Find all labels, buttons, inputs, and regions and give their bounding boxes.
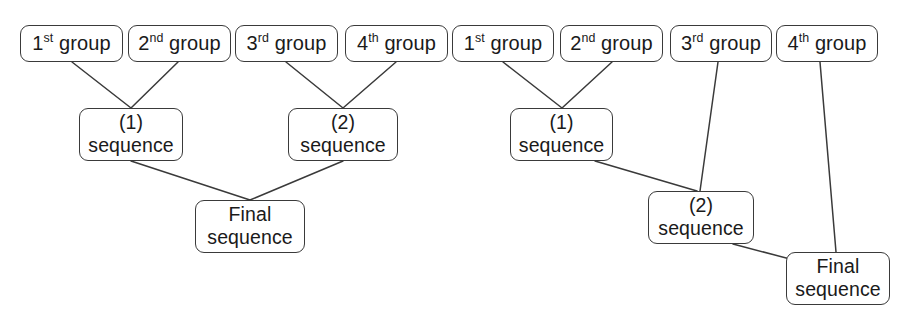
node-r-sequence-2-line2: sequence [658, 218, 743, 240]
node-group-1[interactable]: 1st group [20, 25, 123, 62]
edge-r-seq1-seq2 [595, 161, 697, 191]
edge-r-group4-final [820, 62, 836, 252]
ordinal-suffix: rd [692, 32, 703, 46]
ordinal-suffix: nd [149, 32, 163, 46]
node-sequence-1[interactable]: (1) sequence [79, 108, 183, 161]
ordinal-suffix: nd [581, 32, 595, 46]
edge-seq1-final [131, 161, 250, 200]
node-r-sequence-2-line1: (2) [689, 195, 713, 217]
ordinal-suffix: st [44, 32, 54, 46]
edge-group2-seq1 [131, 62, 178, 108]
node-r-group-2-label: 2nd group [570, 32, 653, 54]
ordinal-suffix: rd [258, 32, 269, 46]
node-group-2-label: 2nd group [138, 32, 221, 54]
node-group-1-label: 1st group [32, 32, 110, 54]
edge-r-group3-seq2 [700, 62, 718, 191]
edge-r-group1-seq1 [503, 62, 562, 108]
node-r-final-sequence[interactable]: Final sequence [786, 252, 890, 305]
node-r-sequence-2[interactable]: (2) sequence [648, 191, 754, 244]
node-sequence-2[interactable]: (2) sequence [288, 108, 398, 161]
ordinal-suffix: th [799, 32, 810, 46]
node-r-group-4-label: 4th group [787, 32, 866, 54]
node-r-group-4[interactable]: 4th group [776, 25, 878, 62]
node-sequence-2-line1: (2) [331, 112, 355, 134]
edge-seq2-final [250, 161, 343, 200]
node-final-sequence-line1: Final [229, 204, 272, 226]
node-r-group-3-label: 3rd group [681, 32, 761, 54]
node-group-4[interactable]: 4th group [345, 25, 448, 62]
ordinal-suffix: st [475, 32, 485, 46]
diagram-canvas: 1st group 2nd group 3rd group 4th group … [0, 0, 908, 322]
node-group-3[interactable]: 3rd group [235, 25, 338, 62]
node-r-group-3[interactable]: 3rd group [670, 25, 772, 62]
node-r-group-1-label: 1st group [464, 32, 542, 54]
node-sequence-1-line1: (1) [119, 112, 143, 134]
node-r-final-sequence-line2: sequence [795, 279, 880, 301]
node-sequence-1-line2: sequence [88, 135, 173, 157]
node-r-sequence-1-line2: sequence [519, 135, 604, 157]
ordinal-suffix: th [368, 32, 379, 46]
node-r-final-sequence-line1: Final [817, 256, 860, 278]
edge-group1-seq1 [72, 62, 131, 108]
node-r-group-1[interactable]: 1st group [452, 25, 554, 62]
node-r-sequence-1[interactable]: (1) sequence [510, 108, 613, 161]
edge-group4-seq2 [343, 62, 396, 108]
node-group-4-label: 4th group [357, 32, 436, 54]
node-final-sequence[interactable]: Final sequence [195, 200, 305, 253]
node-sequence-2-line2: sequence [300, 135, 385, 157]
node-group-3-label: 3rd group [247, 32, 327, 54]
edge-group3-seq2 [286, 62, 343, 108]
node-group-2[interactable]: 2nd group [128, 25, 231, 62]
edge-r-seq2-final [733, 244, 790, 259]
edge-r-group2-seq1 [562, 62, 612, 108]
node-final-sequence-line2: sequence [207, 227, 292, 249]
node-r-group-2[interactable]: 2nd group [560, 25, 663, 62]
node-r-sequence-1-line1: (1) [549, 112, 573, 134]
